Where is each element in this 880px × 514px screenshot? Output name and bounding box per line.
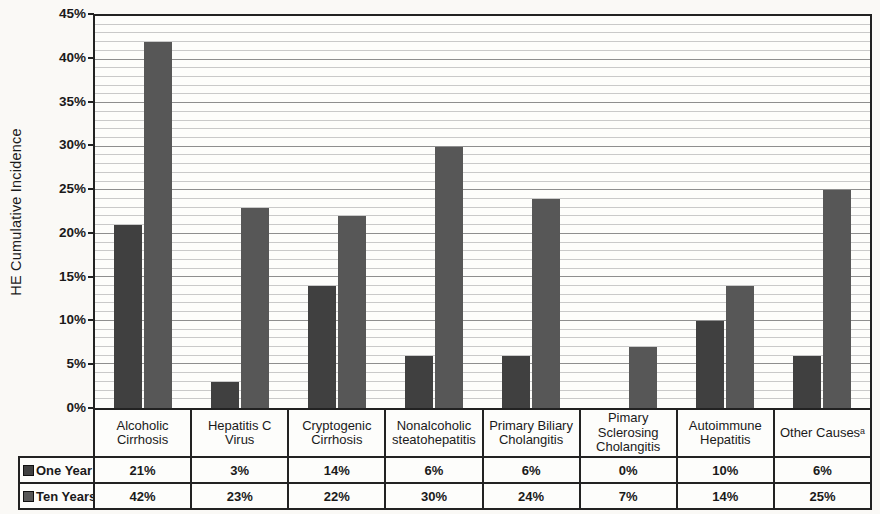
value-one-year-8: 6% bbox=[774, 457, 871, 483]
category-slot-1 bbox=[95, 16, 192, 408]
y-tick-label-15%: 15% bbox=[36, 270, 86, 284]
value-one-year-1: 21% bbox=[94, 457, 191, 483]
y-tick-label-5%: 5% bbox=[36, 357, 86, 371]
category-header-1: Alcoholic Cirrhosis bbox=[94, 409, 191, 457]
bar-one-year-5 bbox=[502, 356, 530, 408]
bar-one-year-3 bbox=[308, 286, 336, 408]
y-tick-label-45%: 45% bbox=[36, 7, 86, 21]
category-slot-8 bbox=[773, 16, 870, 408]
category-header-8: Other Causesᵃ bbox=[774, 409, 871, 457]
category-slot-2 bbox=[192, 16, 289, 408]
value-one-year-5: 6% bbox=[483, 457, 580, 483]
chart-data-table: Alcoholic CirrhosisHepatitis C VirusCryp… bbox=[18, 408, 872, 510]
legend-label-one-year: One Year bbox=[36, 463, 92, 478]
value-ten-years-3: 22% bbox=[288, 483, 385, 509]
legend-swatch-ten-years bbox=[23, 491, 34, 502]
legend-swatch-one-year bbox=[23, 465, 34, 476]
legend-cell-one-year: One Year bbox=[19, 457, 94, 483]
category-header-row: Alcoholic CirrhosisHepatitis C VirusCryp… bbox=[19, 409, 871, 457]
series-row-one-year: One Year21%3%14%6%6%0%10%6% bbox=[19, 457, 871, 483]
value-ten-years-4: 30% bbox=[385, 483, 482, 509]
category-header-2: Hepatitis C Virus bbox=[191, 409, 288, 457]
value-one-year-4: 6% bbox=[385, 457, 482, 483]
category-slot-3 bbox=[289, 16, 386, 408]
category-slot-6 bbox=[579, 16, 676, 408]
category-header-7: Autoimmune Hepatitis bbox=[677, 409, 774, 457]
bar-ten-years-4 bbox=[435, 147, 463, 408]
category-slot-4 bbox=[386, 16, 483, 408]
category-header-5: Primary Biliary Cholangitis bbox=[483, 409, 580, 457]
y-tick-label-25%: 25% bbox=[36, 182, 86, 196]
series-row-ten-years: Ten Years42%23%22%30%24%7%14%25% bbox=[19, 483, 871, 509]
y-tick-label-40%: 40% bbox=[36, 51, 86, 65]
bar-ten-years-2 bbox=[241, 208, 269, 408]
value-ten-years-1: 42% bbox=[94, 483, 191, 509]
category-header-6: Pimary Sclerosing Cholangitis bbox=[580, 409, 677, 457]
category-header-3: Cryptogenic Cirrhosis bbox=[288, 409, 385, 457]
chart-figure: HE Cumulative Incidence 0%5%10%15%20%25%… bbox=[0, 0, 880, 514]
category-slot-5 bbox=[483, 16, 580, 408]
value-one-year-7: 10% bbox=[677, 457, 774, 483]
bar-one-year-7 bbox=[696, 321, 724, 408]
category-slot-7 bbox=[676, 16, 773, 408]
bar-ten-years-8 bbox=[823, 190, 851, 408]
value-ten-years-6: 7% bbox=[580, 483, 677, 509]
value-ten-years-5: 24% bbox=[483, 483, 580, 509]
y-tick-label-10%: 10% bbox=[36, 313, 86, 327]
value-one-year-6: 0% bbox=[580, 457, 677, 483]
legend-cell-ten-years: Ten Years bbox=[19, 483, 94, 509]
bar-ten-years-1 bbox=[144, 42, 172, 408]
bar-one-year-4 bbox=[405, 356, 433, 408]
y-tick-label-20%: 20% bbox=[36, 226, 86, 240]
value-ten-years-7: 14% bbox=[677, 483, 774, 509]
y-tick-label-35%: 35% bbox=[36, 95, 86, 109]
plot-area bbox=[93, 14, 872, 410]
bar-ten-years-7 bbox=[726, 286, 754, 408]
bar-one-year-8 bbox=[793, 356, 821, 408]
bar-ten-years-6 bbox=[629, 347, 657, 408]
y-axis-title: HE Cumulative Incidence bbox=[8, 128, 24, 295]
bar-one-year-2 bbox=[211, 382, 239, 408]
bar-ten-years-3 bbox=[338, 216, 366, 408]
bar-ten-years-5 bbox=[532, 199, 560, 408]
table-body: One Year21%3%14%6%6%0%10%6%Ten Years42%2… bbox=[19, 457, 871, 509]
category-header-4: Nonalcoholic steatohepatitis bbox=[385, 409, 482, 457]
value-ten-years-2: 23% bbox=[191, 483, 288, 509]
table-corner-cell bbox=[19, 409, 94, 457]
value-one-year-3: 14% bbox=[288, 457, 385, 483]
bar-slots bbox=[95, 16, 870, 408]
value-one-year-2: 3% bbox=[191, 457, 288, 483]
bar-one-year-1 bbox=[114, 225, 142, 408]
legend-label-ten-years: Ten Years bbox=[36, 489, 94, 504]
y-tick-label-30%: 30% bbox=[36, 138, 86, 152]
y-axis-tick-labels: 0%5%10%15%20%25%30%35%40%45% bbox=[36, 14, 86, 408]
value-ten-years-8: 25% bbox=[774, 483, 871, 509]
